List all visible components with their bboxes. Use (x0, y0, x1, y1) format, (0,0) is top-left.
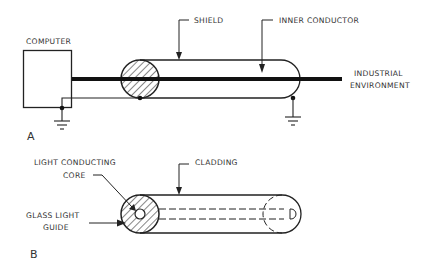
shield-drain-wire (62, 98, 140, 108)
fiber-core-circle (135, 209, 145, 219)
panel-b: LIGHT CONDUCTING CORE CLADDING GLASS LIG… (26, 158, 301, 261)
junction-dot-shield (138, 96, 143, 101)
ground-icon-right (285, 98, 301, 125)
hidden-end-arc (263, 195, 282, 233)
inner-conductor-label: INNER CONDUCTOR (279, 16, 360, 25)
ground-icon-left (54, 108, 70, 129)
cladding-outline (140, 195, 301, 233)
panel-b-letter: B (30, 248, 38, 261)
panel-a-letter: A (27, 130, 35, 143)
guide-label-line1: GLASS LIGHT (26, 211, 80, 220)
industrial-label-line1: INDUSTRIAL (354, 69, 403, 78)
inner-conductor-leader-arrow (259, 20, 273, 73)
guide-label-line2: GUIDE (43, 223, 69, 232)
shield-leader-arrow (176, 20, 189, 60)
core-end-mark (290, 209, 296, 219)
industrial-label-line2: ENVIRONMENT (350, 81, 410, 90)
core-label-line2: CORE (63, 171, 86, 180)
core-label-line1: LIGHT CONDUCTING (34, 158, 116, 167)
guide-leader-arrow (89, 220, 126, 227)
diagram-canvas: COMPUTER SHIELD (0, 0, 424, 274)
computer-box (24, 51, 72, 108)
cladding-label: CLADDING (195, 158, 238, 167)
cladding-leader-arrow (176, 164, 189, 195)
shield-label: SHIELD (194, 16, 223, 25)
computer-label: COMPUTER (26, 37, 72, 46)
panel-a: COMPUTER SHIELD (24, 16, 410, 143)
